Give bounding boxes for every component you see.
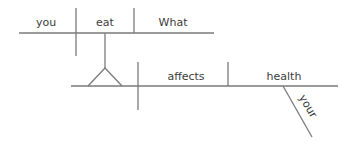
main-object-word: health — [267, 70, 302, 83]
clause-subject-word: you — [36, 16, 56, 29]
clause-object-word: What — [159, 16, 189, 29]
pedestal — [88, 33, 122, 86]
clause-verb-word: eat — [96, 16, 115, 29]
noun-clause: you eat What — [19, 8, 214, 56]
main-verb-word: affects — [167, 70, 204, 83]
pedestal-triangle — [88, 68, 122, 86]
sentence-diagram: you eat What affects health your — [0, 0, 352, 148]
main-clause: affects health your — [71, 62, 338, 137]
